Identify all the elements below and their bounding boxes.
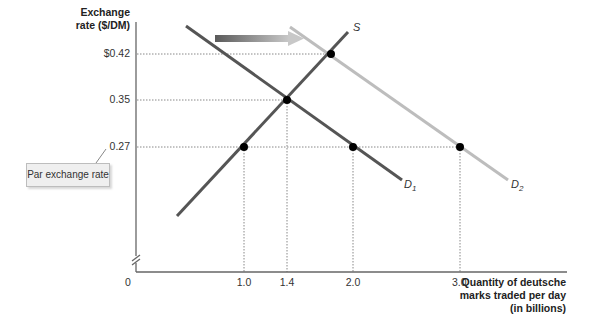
y-tick-042: $0.42 (70, 47, 130, 59)
demand-d1-label: D1 (404, 178, 416, 193)
x-axis-title-line3: (in billions) (440, 302, 566, 315)
demand-curve-d1 (186, 26, 402, 180)
y-tick-027: 0.27 (70, 140, 130, 152)
equilibrium-points (240, 50, 464, 151)
x-axis-title-line1: Quantity of deutsche (440, 276, 566, 289)
x-axis-title-line2: marks traded per day (440, 289, 566, 302)
demand-d1-subscript: 1 (412, 184, 416, 193)
x-tick-14: 1.4 (272, 276, 302, 288)
x-tick-10: 1.0 (229, 276, 259, 288)
y-axis-title-line1: Exchange (40, 6, 130, 19)
x-tick-0: 0 (125, 276, 131, 288)
demand-d2-letter: D (511, 178, 519, 190)
y-axis-title-line2: rate ($/DM) (40, 19, 130, 32)
demand-d2-subscript: 2 (519, 184, 523, 193)
x-tick-20: 2.0 (338, 276, 368, 288)
demand-curve-d2 (290, 27, 508, 180)
par-exchange-rate-callout: Par exchange rate (26, 163, 110, 187)
supply-label: S (353, 21, 360, 33)
shift-arrow-icon (215, 31, 304, 46)
demand-d2-label: D2 (511, 178, 523, 193)
demand-d1-letter: D (404, 178, 412, 190)
y-axis-title: Exchange rate ($/DM) (40, 6, 130, 32)
y-tick-035: 0.35 (70, 93, 130, 105)
x-axis-title: Quantity of deutsche marks traded per da… (440, 276, 566, 315)
